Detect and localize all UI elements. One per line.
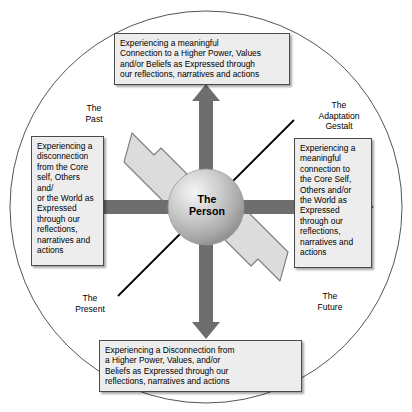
label-the-present: The Present: [64, 293, 116, 314]
box-disconnection-core-self: Experiencing a disconnection from the Co…: [31, 136, 104, 266]
label-the-past: The Past: [72, 103, 116, 124]
box-spiritual-connection: Experiencing a meaningful Connection to …: [114, 33, 290, 85]
box-connection-core-self: Experiencing a meaningful connection to …: [294, 138, 372, 268]
box-spiritual-disconnection: Experiencing a Disconnection from a High…: [99, 340, 302, 392]
diagram-canvas: The Person Experiencing a meaningful Con…: [0, 0, 412, 412]
label-the-adaptation-gestalt: The Adaptation Gestalt: [306, 100, 372, 132]
the-person-sphere: [168, 169, 244, 245]
label-the-future: The Future: [306, 291, 354, 312]
